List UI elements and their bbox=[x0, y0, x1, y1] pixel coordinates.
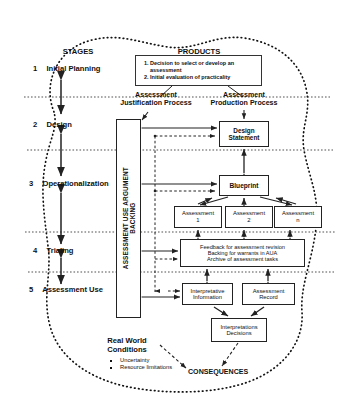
design-statement-box: Design Statement bbox=[219, 121, 269, 147]
stage-5-label: Assessment Use bbox=[42, 285, 103, 294]
production-line2: Production Process bbox=[204, 99, 284, 107]
assessment-n-line2: n bbox=[282, 217, 314, 224]
blueprint-box: Blueprint bbox=[219, 175, 269, 196]
assessment-1-line1: Assessment bbox=[182, 210, 214, 217]
assessment-record-box: Assessment Record bbox=[242, 283, 295, 305]
stage-2-number: 2 bbox=[33, 120, 37, 129]
arrow-decisions-consequences bbox=[222, 343, 238, 366]
assessment-record-line2: Record bbox=[253, 294, 285, 300]
stage-1-number: 1 bbox=[33, 64, 37, 73]
diagram-canvas: STAGES PRODUCTS 1 Initial Planning 2 Des… bbox=[0, 0, 350, 404]
real-world-bullet-2: Resource limitations bbox=[120, 364, 174, 371]
feedback-line3: Archive of assessment tasks bbox=[207, 256, 278, 262]
assessment-2-line2: 2 bbox=[233, 217, 265, 224]
consequences-label: CONSEQUENCES bbox=[188, 368, 248, 376]
assessment-1-line2: 1 bbox=[182, 217, 214, 224]
real-world-title-line1: Real World bbox=[92, 336, 162, 345]
justification-line1: Assessment bbox=[118, 91, 194, 99]
stage-4-label: Trialing bbox=[46, 246, 73, 255]
decisions-line: Decisions bbox=[220, 330, 257, 336]
products-item-1: Decision to select or develop an assessm… bbox=[150, 60, 258, 74]
assessment-2-line1: Assessment bbox=[233, 210, 265, 217]
stage-item-5: 5 Assessment Use bbox=[29, 285, 103, 294]
arrow-interp-to-decisions bbox=[214, 307, 228, 316]
real-world-conditions-title: Real World Conditions bbox=[92, 336, 162, 354]
stage-3-number: 3 bbox=[29, 179, 33, 188]
justification-line2: Justification Process bbox=[118, 99, 194, 107]
real-world-bullets: Uncertainty Resource limitations bbox=[112, 357, 174, 371]
stage-2-label: Design bbox=[46, 120, 71, 129]
aua-backing-box: ASSESSMENT USE ARGUMENT BACKING bbox=[116, 119, 141, 318]
interpretations-decisions-box: Interpretations Decisions bbox=[211, 318, 267, 342]
dashed-node-top bbox=[154, 135, 157, 138]
interpretative-information-box: Interpretative Information bbox=[182, 283, 233, 305]
production-process-header: Assessment Production Process bbox=[204, 91, 284, 107]
justification-process-header: Assessment Justification Process bbox=[118, 91, 194, 107]
dashed-node-mid bbox=[154, 190, 157, 193]
feedback-box: Feedback for assessment revision Backing… bbox=[180, 239, 305, 267]
stage-1-label: Initial Planning bbox=[46, 64, 100, 73]
production-line1: Assessment bbox=[204, 91, 284, 99]
stage-item-2: 2 Design bbox=[33, 120, 72, 129]
assessment-n-line1: Assessment bbox=[282, 210, 314, 217]
aua-line1: ASSESSMENT USE ARGUMENT bbox=[121, 167, 128, 269]
products-box: Decision to select or develop an assessm… bbox=[135, 55, 262, 86]
stages-column-header: STAGES bbox=[46, 47, 110, 56]
assessment-n-box: Assessment n bbox=[274, 206, 322, 228]
assessment-1-box: Assessment 1 bbox=[174, 206, 222, 228]
stage-3-label: Operationalization bbox=[42, 179, 108, 188]
real-world-bullet-1: Uncertainty bbox=[120, 357, 174, 364]
interp-info-line2: Information bbox=[191, 294, 225, 300]
real-world-title-line2: Conditions bbox=[92, 345, 162, 354]
stage-4-number: 4 bbox=[33, 246, 37, 255]
design-statement-line1: Design bbox=[229, 127, 260, 134]
assessment-2-box: Assessment 2 bbox=[225, 206, 273, 228]
aua-line2: BACKING bbox=[129, 203, 136, 234]
blueprint-label: Blueprint bbox=[230, 182, 259, 189]
arrow-justification-down bbox=[142, 112, 148, 120]
stage-item-1: 1 Initial Planning bbox=[33, 64, 101, 73]
products-list: Decision to select or develop an assessm… bbox=[139, 60, 258, 81]
arrow-record-to-decisions bbox=[251, 307, 264, 316]
real-world-bullet-list: Uncertainty Resource limitations bbox=[112, 357, 174, 371]
design-statement-line2: Statement bbox=[229, 134, 260, 141]
products-item-2: Initial evaluation of practicality bbox=[150, 74, 258, 81]
process-header-arrows bbox=[142, 110, 244, 120]
aua-backing-label: ASSESSMENT USE ARGUMENT BACKING bbox=[121, 167, 135, 269]
stage-item-3: 3 Operationalization bbox=[29, 179, 109, 188]
stage-item-4: 4 Trialing bbox=[33, 246, 74, 255]
stage-5-number: 5 bbox=[29, 285, 33, 294]
